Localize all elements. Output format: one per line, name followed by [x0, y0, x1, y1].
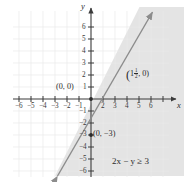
y-tick-label-6: 6: [82, 24, 86, 31]
y-tick-label--6: −6: [79, 168, 87, 175]
x-tick-label-6: 6: [149, 103, 153, 110]
y-tick-label-5: 5: [82, 36, 86, 43]
y-intercept-point-label: (0, −3): [93, 130, 115, 138]
y-tick-label-4: 4: [82, 48, 86, 55]
x-tick-label-2: 2: [101, 103, 105, 110]
x-tick-label--2: −2: [63, 103, 71, 110]
y-tick-label--3: −3: [79, 131, 87, 138]
inequality-graph-figure: −6 −5 −4 −3 −2 −1 2 3 4 5 6 6 5 4 3 2 1 …: [0, 0, 190, 182]
y-tick-label--1: −1: [79, 108, 87, 115]
x-tick-label-4: 4: [125, 103, 129, 110]
y-tick-label--5: −5: [79, 156, 87, 163]
x-tick-label--5: −5: [27, 103, 35, 110]
coordinate-plane-svg: [0, 0, 190, 182]
point-origin: [89, 97, 93, 101]
x-intercept-suffix: , 0): [138, 69, 149, 78]
origin-point-label: (0, 0): [56, 83, 74, 91]
y-tick-label--2: −2: [79, 120, 87, 127]
y-tick-label-2: 2: [82, 72, 86, 79]
y-tick-label-1: 1: [83, 84, 87, 91]
x-tick-label--6: −6: [15, 103, 23, 110]
x-axis-label: x: [177, 101, 181, 110]
shaded-solution-region: [55, 7, 184, 176]
y-tick-label-3: 3: [82, 60, 86, 67]
y-axis-label: y: [81, 2, 85, 11]
inequality-label: 2x − y ≥ 3: [112, 157, 149, 166]
y-tick-label--4: −4: [79, 144, 87, 151]
x-intercept-point-label: (112, 0): [126, 68, 149, 79]
x-tick-label--3: −3: [51, 103, 59, 110]
x-tick-label-5: 5: [137, 103, 141, 110]
x-tick-label-3: 3: [113, 103, 117, 110]
x-tick-label--4: −4: [39, 103, 47, 110]
